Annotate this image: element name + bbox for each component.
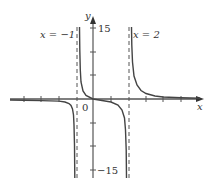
y-axis-arrow-icon xyxy=(90,16,96,24)
function-curve xyxy=(10,27,200,178)
x-axis-label: x xyxy=(197,101,203,112)
asymptote-right-label: x = 2 xyxy=(133,29,160,40)
curve-branch-left xyxy=(10,100,75,178)
y-tick-label-top: 15 xyxy=(98,23,111,34)
origin-label: 0 xyxy=(82,102,88,113)
y-axis xyxy=(90,16,96,178)
asymptote-left-label: x = −1 xyxy=(40,29,75,40)
rational-function-graph: y 15 −15 0 x x = −1 x = 2 xyxy=(0,0,212,184)
y-axis-label: y xyxy=(84,10,91,21)
y-tick-label-bottom: −15 xyxy=(97,165,118,176)
